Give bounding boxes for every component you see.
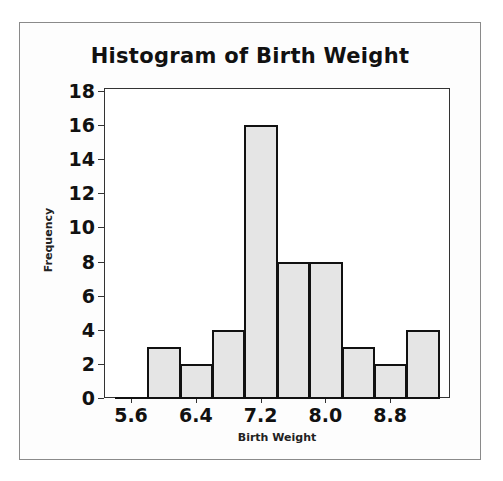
histogram-bar (115, 397, 148, 399)
y-tick (98, 125, 104, 126)
y-tick-label: 6 (35, 286, 95, 306)
x-tick-label: 7.2 (231, 404, 291, 426)
histogram-bar (244, 125, 277, 399)
histogram-bar (212, 330, 245, 399)
histogram-bar (342, 347, 375, 399)
y-tick (98, 296, 104, 297)
y-axis-title: Frequency (42, 208, 55, 272)
y-tick (98, 159, 104, 160)
x-tick-label: 5.6 (101, 404, 161, 426)
x-axis-title: Birth Weight (104, 431, 450, 444)
y-tick-label: 2 (35, 354, 95, 374)
histogram-bar (180, 364, 213, 399)
x-tick-label: 8.8 (360, 404, 420, 426)
y-tick (98, 91, 104, 92)
y-tick (98, 227, 104, 228)
histogram-bar (147, 347, 180, 399)
y-tick (98, 364, 104, 365)
y-tick (98, 330, 104, 331)
chart-title: Histogram of Birth Weight (19, 44, 481, 68)
y-tick (98, 193, 104, 194)
y-tick (98, 398, 104, 399)
y-tick-label: 16 (35, 115, 95, 135)
y-tick-label: 12 (35, 183, 95, 203)
y-tick-label: 4 (35, 320, 95, 340)
y-tick-label: 18 (35, 81, 95, 101)
histogram-bar (406, 330, 439, 399)
x-tick-label: 6.4 (166, 404, 226, 426)
y-tick-label: 14 (35, 149, 95, 169)
histogram-bar (374, 364, 407, 399)
y-tick-label: 0 (35, 388, 95, 408)
x-tick-label: 8.0 (295, 404, 355, 426)
histogram-bar (277, 262, 310, 399)
histogram-bar (309, 262, 342, 399)
y-tick (98, 262, 104, 263)
